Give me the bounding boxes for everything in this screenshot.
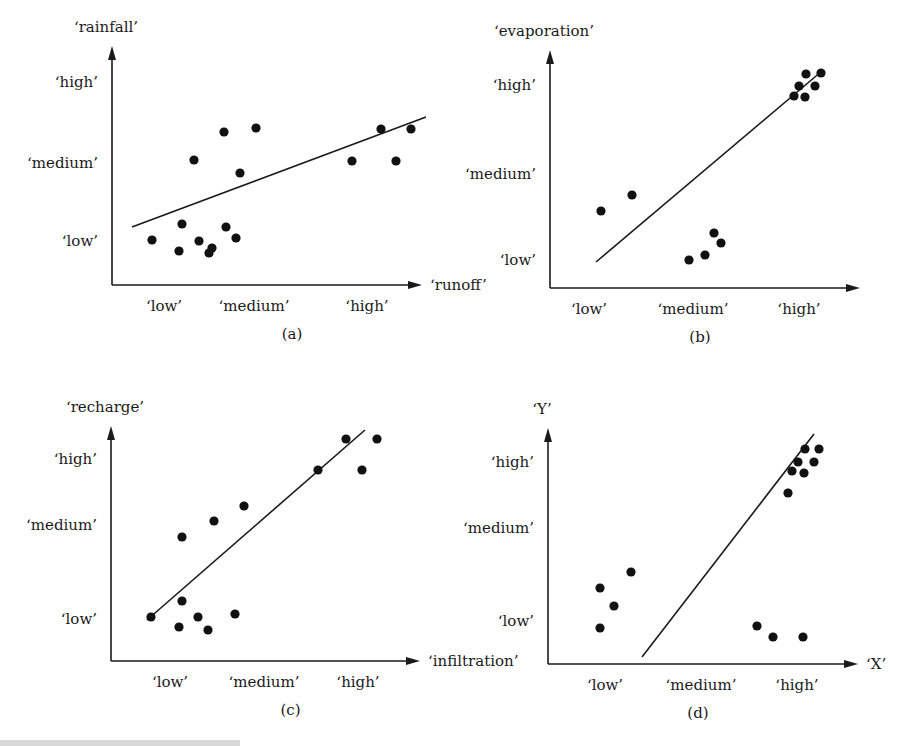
data-point <box>716 238 725 247</box>
y-axis-arrow-icon <box>544 428 552 442</box>
data-point <box>627 190 636 199</box>
panel-c: ‘recharge’‘infiltration’‘low’‘medium’‘hi… <box>26 398 518 719</box>
data-point <box>816 68 825 77</box>
x-axis-arrow-icon <box>408 281 422 289</box>
y-tick-label: ‘medium’ <box>463 519 534 537</box>
panel-caption: (c) <box>280 701 300 719</box>
x-tick-label: ‘low’ <box>587 676 623 694</box>
x-axis-arrow-icon <box>844 660 858 668</box>
data-point <box>626 567 635 576</box>
data-point <box>189 155 198 164</box>
data-point <box>313 465 322 474</box>
data-point <box>147 235 156 244</box>
y-tick-label: ‘high’ <box>491 453 534 471</box>
data-point <box>177 219 186 228</box>
y-tick-label: ‘low’ <box>498 612 534 630</box>
data-point <box>203 625 212 634</box>
y-tick-label: ‘low’ <box>500 251 536 269</box>
panel-b: ‘evaporation’‘low’‘medium’‘high’‘low’‘me… <box>465 22 860 346</box>
data-point <box>357 465 366 474</box>
x-axis-arrow-icon <box>846 284 860 292</box>
data-point <box>752 621 761 630</box>
data-point <box>799 468 808 477</box>
data-point <box>231 233 240 242</box>
data-point <box>783 488 792 497</box>
data-point <box>177 596 186 605</box>
trend-line <box>147 430 365 620</box>
panel-caption: (d) <box>687 704 708 722</box>
data-point <box>800 92 809 101</box>
data-point <box>596 206 605 215</box>
x-tick-label: ‘low’ <box>152 673 188 691</box>
data-point <box>177 532 186 541</box>
trend-line <box>596 71 822 262</box>
data-point <box>595 623 604 632</box>
y-axis-arrow-icon <box>107 426 115 440</box>
data-point <box>794 81 803 90</box>
x-axis-arrow-icon <box>406 657 420 665</box>
x-tick-label: ‘high’ <box>775 676 818 694</box>
panel-a: ‘rainfall’‘runoff’‘low’‘medium’‘high’‘lo… <box>27 18 487 343</box>
data-point <box>209 516 218 525</box>
data-point <box>793 457 802 466</box>
y-tick-label: ‘medium’ <box>465 165 536 183</box>
x-tick-label: ‘low’ <box>146 297 182 315</box>
x-tick-label: ‘medium’ <box>229 673 300 691</box>
x-tick-label: ‘medium’ <box>658 300 729 318</box>
data-point <box>809 457 818 466</box>
panel-caption: (b) <box>689 328 710 346</box>
data-point <box>221 222 230 231</box>
data-point <box>251 123 260 132</box>
x-tick-label: ‘high’ <box>336 673 379 691</box>
data-point <box>239 501 248 510</box>
data-point <box>193 612 202 621</box>
data-point <box>800 444 809 453</box>
data-point <box>341 434 350 443</box>
data-point <box>798 632 807 641</box>
y-tick-label: ‘high’ <box>55 73 98 91</box>
data-point <box>376 124 385 133</box>
data-point <box>207 243 216 252</box>
x-axis-title: ‘infiltration’ <box>428 652 518 670</box>
data-point <box>146 612 155 621</box>
y-axis-title: ‘Y’ <box>532 400 551 418</box>
y-tick-label: ‘low’ <box>61 610 97 628</box>
data-point <box>347 156 356 165</box>
data-point <box>194 236 203 245</box>
y-tick-label: ‘high’ <box>493 76 536 94</box>
x-tick-label: ‘medium’ <box>219 297 290 315</box>
data-point <box>789 91 798 100</box>
figure-caption-fragment <box>0 740 240 746</box>
x-axis-title: ‘runoff’ <box>430 276 487 294</box>
x-tick-label: ‘high’ <box>777 300 820 318</box>
y-tick-label: ‘medium’ <box>27 154 98 172</box>
data-point <box>219 127 228 136</box>
x-tick-label: ‘low’ <box>571 300 607 318</box>
data-point <box>801 69 810 78</box>
data-point <box>810 81 819 90</box>
figure-canvas: ‘rainfall’‘runoff’‘low’‘medium’‘high’‘lo… <box>0 0 906 746</box>
data-point <box>787 466 796 475</box>
y-tick-label: ‘medium’ <box>26 516 97 534</box>
data-point <box>372 434 381 443</box>
data-point <box>700 250 709 259</box>
panel-d: ‘Y’‘X’‘low’‘medium’‘high’‘low’‘medium’‘h… <box>463 400 886 722</box>
x-tick-label: ‘medium’ <box>666 676 737 694</box>
data-point <box>406 124 415 133</box>
data-point <box>609 601 618 610</box>
data-point <box>684 255 693 264</box>
y-axis-title: ‘evaporation’ <box>494 22 594 40</box>
x-tick-label: ‘high’ <box>345 297 388 315</box>
data-point <box>391 156 400 165</box>
data-point <box>595 583 604 592</box>
trend-line <box>642 434 814 657</box>
y-axis-title: ‘rainfall’ <box>74 18 138 36</box>
data-point <box>174 622 183 631</box>
data-point <box>235 168 244 177</box>
y-axis-title: ‘recharge’ <box>66 398 144 416</box>
data-point <box>174 246 183 255</box>
panel-caption: (a) <box>282 325 303 343</box>
y-tick-label: ‘low’ <box>62 232 98 250</box>
x-axis-title: ‘X’ <box>866 655 886 673</box>
data-point <box>768 632 777 641</box>
